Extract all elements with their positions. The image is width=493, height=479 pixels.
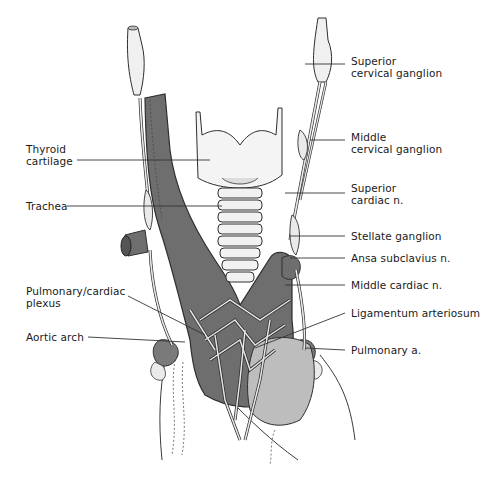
label-superior-cervical-ganglion: Superior cervical ganglion	[351, 55, 442, 79]
label-line: Middle	[351, 131, 442, 143]
label-line: cardiac n.	[351, 194, 403, 206]
label-middle-cardiac-n: Middle cardiac n.	[351, 279, 442, 291]
label-trachea: Trachea	[26, 200, 68, 212]
label-line: Superior	[351, 55, 442, 67]
label-superior-cardiac-n: Superior cardiac n.	[351, 182, 403, 206]
label-line: Pulmonary/cardiac	[26, 285, 125, 297]
label-pulmonary-cardiac-plexus: Pulmonary/cardiac plexus	[26, 285, 125, 309]
label-line: Trachea	[26, 200, 68, 212]
label-thyroid-cartilage: Thyroid cartilage	[26, 143, 73, 167]
label-ansa-subclavius-n: Ansa subclavius n.	[351, 252, 450, 264]
label-line: Ansa subclavius n.	[351, 252, 450, 264]
label-line: Stellate ganglion	[351, 230, 441, 242]
label-line: Thyroid	[26, 143, 73, 155]
anatomical-figure: Thyroid cartilage Trachea Pulmonary/card…	[0, 0, 493, 479]
label-aortic-arch: Aortic arch	[26, 331, 84, 343]
label-line: Middle cardiac n.	[351, 279, 442, 291]
label-line: Aortic arch	[26, 331, 84, 343]
label-line: cartilage	[26, 155, 73, 167]
label-line: Superior	[351, 182, 403, 194]
right-sympathetic-chain	[290, 18, 332, 350]
label-line: Pulmonary a.	[351, 344, 421, 356]
trachea-shape	[218, 188, 262, 282]
label-stellate-ganglion: Stellate ganglion	[351, 230, 441, 242]
thyroid-cartilage-shape	[196, 108, 282, 188]
aortic-arch-shape	[151, 340, 179, 381]
label-line: Ligamentum arteriosum	[351, 307, 480, 319]
label-line: plexus	[26, 297, 125, 309]
label-line: cervical ganglion	[351, 67, 442, 79]
label-middle-cervical-ganglion: Middle cervical ganglion	[351, 131, 442, 155]
label-ligamentum-arteriosum: Ligamentum arteriosum	[351, 307, 480, 319]
label-line: cervical ganglion	[351, 143, 442, 155]
label-pulmonary-a: Pulmonary a.	[351, 344, 421, 356]
